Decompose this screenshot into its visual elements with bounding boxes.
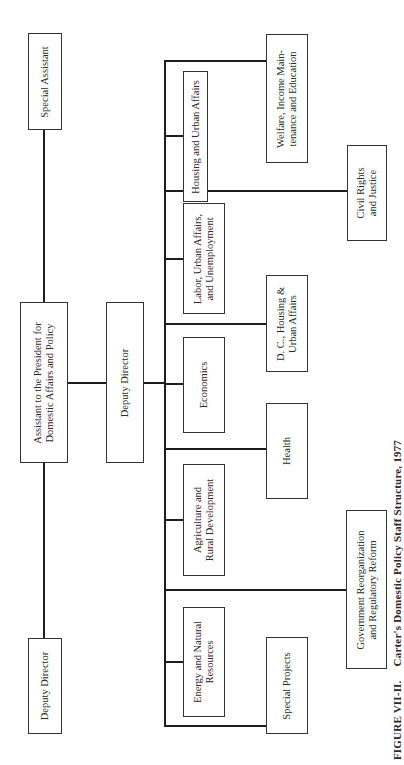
node-civil-rights: Civil Rightsand Justice	[347, 145, 387, 241]
connector-root-to-deputy	[68, 382, 106, 384]
figure-caption: FIGURE VII-II.Carter's Domestic Policy S…	[391, 440, 403, 760]
node-gov-reorganization: Government Reorganizationand Regulatory …	[346, 510, 387, 669]
connector-row-1	[165, 60, 267, 62]
node-special-assistant: Special Assistant	[28, 33, 62, 130]
figure-label: FIGURE VII-II.	[391, 680, 403, 760]
connector-row-6	[165, 725, 267, 727]
connector-stub-energy	[165, 661, 183, 663]
node-deputy-director-left: Deputy Director	[28, 638, 62, 734]
connector-units-spine	[164, 60, 166, 727]
node-health: Health	[266, 403, 308, 499]
node-agriculture: Agriculture andRural Development	[183, 464, 225, 576]
node-energy: Energy and NaturalResources	[183, 607, 225, 717]
node-housing-urban-affairs: Housing and Urban Affairs	[183, 71, 208, 202]
node-labor: Labor, Urban Affairs,and Unemployment	[183, 203, 225, 314]
figure-title: Carter's Domestic Policy Staff Structure…	[391, 440, 403, 667]
connector-row-3	[165, 323, 267, 325]
node-deputy-director-center: Deputy Director	[106, 302, 144, 463]
connector-stub-economics	[165, 383, 183, 385]
node-welfare: Welfare, Income Main-tenance and Educati…	[266, 34, 308, 163]
connector-row-4	[165, 448, 267, 450]
connector-deputy-to-units	[144, 382, 166, 384]
node-economics: Economics	[183, 337, 225, 433]
node-special-projects: Special Projects	[266, 637, 308, 734]
connector-stub-agriculture	[165, 519, 183, 521]
connector-stub-housing	[165, 135, 183, 137]
connector-row-5	[165, 589, 347, 591]
node-dc-housing: D. C., Housing &Urban Affairs	[266, 275, 308, 372]
node-assistant-to-president: Assistant to the President forDomestic A…	[20, 302, 68, 463]
connector-stub-labor	[165, 258, 183, 260]
